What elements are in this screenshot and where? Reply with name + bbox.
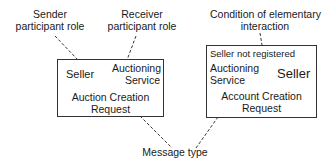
right-message-line2: Request (206, 102, 317, 114)
left-message: Auction Creation Request (57, 91, 164, 115)
left-receiver-line2: Service (112, 74, 160, 86)
message-type-pointer-right (196, 117, 218, 148)
left-receiver-line1: Auctioning (112, 62, 160, 74)
condition-pointer (260, 33, 262, 45)
receiver-role-line1: Receiver (102, 8, 182, 20)
right-sender-line2: Service (210, 74, 259, 86)
sender-role-line2: participant role (10, 20, 90, 32)
message-type-pointer-left (140, 116, 172, 148)
right-message: Account Creation Request (206, 90, 317, 114)
sender-role-pointer (55, 36, 78, 60)
condition-line2: interaction (210, 20, 320, 32)
sender-role-label: Sender participant role (10, 8, 90, 32)
receiver-role-pointer (127, 36, 136, 60)
receiver-role-line2: participant role (102, 20, 182, 32)
condition-label: Condition of elementary interaction (210, 8, 320, 32)
left-message-line1: Auction Creation (57, 91, 164, 103)
sender-role-line1: Sender (10, 8, 90, 20)
right-sender-role: Auctioning Service (210, 62, 259, 86)
right-message-line1: Account Creation (206, 90, 317, 102)
condition-line1: Condition of elementary (210, 8, 320, 20)
right-sender-line1: Auctioning (210, 62, 259, 74)
left-sender-role: Seller (66, 68, 94, 80)
receiver-role-label: Receiver participant role (102, 8, 182, 32)
right-condition: Seller not registered (210, 48, 295, 60)
left-receiver-role: Auctioning Service (112, 62, 160, 86)
left-message-line2: Request (57, 103, 164, 115)
right-receiver-role: Seller (277, 67, 310, 81)
message-type-label: Message type (135, 146, 215, 158)
